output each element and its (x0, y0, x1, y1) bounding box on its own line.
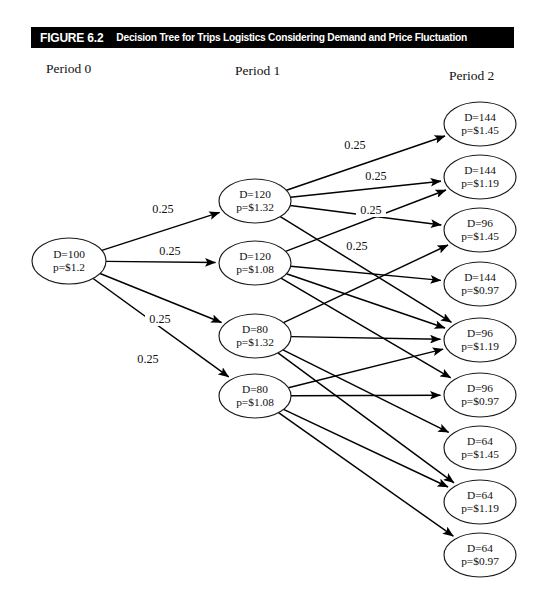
svg-text:0.25: 0.25 (360, 203, 381, 217)
tree-edge (291, 395, 441, 396)
node-price-value: p=$1.45 (461, 124, 499, 136)
tree-edge (280, 217, 451, 323)
tree-edge (284, 245, 449, 323)
node-demand-value: D=80 (242, 383, 268, 395)
node-demand-value: D=144 (464, 164, 496, 176)
tree-edge (286, 274, 445, 328)
svg-text:0.25: 0.25 (159, 244, 180, 258)
node-price-value: p=$0.97 (461, 284, 499, 296)
node-price-value: p=$1.19 (461, 177, 499, 189)
tree-node: D=144p=$0.97 (444, 262, 516, 306)
edge-probability-label: 0.25 (361, 169, 391, 183)
node-demand-value: D=64 (467, 489, 493, 501)
node-price-value: p=$1.19 (461, 502, 499, 514)
tree-edge (291, 266, 441, 280)
tree-edge (288, 349, 443, 388)
node-demand-value: D=144 (464, 111, 496, 123)
node-demand-value: D=64 (467, 542, 493, 554)
node-price-value: p=$1.32 (236, 336, 274, 348)
tree-node: D=96p=$0.97 (444, 373, 516, 417)
tree-edge (290, 181, 441, 197)
tree-node: D=96p=$1.19 (444, 318, 516, 362)
edge-probability-label: 0.25 (340, 138, 370, 152)
figure-container: FIGURE 6.2 Decision Tree for Trips Logis… (0, 0, 545, 608)
tree-node: D=144p=$1.19 (444, 155, 516, 199)
node-demand-value: D=120 (239, 188, 271, 200)
edge-probability-label: 0.25 (148, 202, 178, 216)
node-demand-value: D=96 (467, 327, 493, 339)
svg-text:0.25: 0.25 (152, 202, 173, 216)
tree-edge (291, 337, 441, 340)
tree-edge (281, 278, 451, 378)
tree-edge (279, 413, 454, 537)
tree-node: D=80p=$1.08 (219, 374, 291, 418)
tree-edge (284, 409, 449, 487)
node-price-value: p=$1.45 (461, 230, 499, 242)
tree-edge (106, 261, 216, 262)
svg-text:0.25: 0.25 (149, 312, 170, 326)
node-demand-value: D=100 (53, 248, 85, 260)
svg-text:0.25: 0.25 (137, 352, 158, 366)
node-demand-value: D=96 (467, 217, 493, 229)
tree-node: D=100p=$1.2 (32, 238, 106, 284)
node-demand-value: D=96 (467, 382, 493, 394)
decision-tree-canvas: D=100p=$1.2D=120p=$1.32D=120p=$1.08D=80p… (0, 0, 545, 608)
node-layer: D=100p=$1.2D=120p=$1.32D=120p=$1.08D=80p… (32, 102, 516, 577)
tree-node: D=144p=$1.45 (444, 102, 516, 146)
tree-edge (278, 353, 454, 483)
node-price-value: p=$1.45 (461, 448, 499, 460)
tree-node: D=120p=$1.32 (219, 179, 291, 223)
node-price-value: p=$1.19 (461, 340, 499, 352)
edge-probability-label: 0.25 (356, 203, 386, 217)
node-demand-value: D=64 (467, 435, 493, 447)
svg-text:0.25: 0.25 (346, 239, 367, 253)
node-price-value: p=$0.97 (461, 555, 499, 567)
tree-node: D=64p=$0.97 (444, 533, 516, 577)
tree-node: D=64p=$1.19 (444, 480, 516, 524)
node-demand-value: D=144 (464, 271, 496, 283)
tree-node: D=80p=$1.32 (219, 314, 291, 358)
svg-text:0.25: 0.25 (365, 169, 386, 183)
edge-probability-label: 0.25 (155, 244, 185, 258)
node-price-value: p=$1.32 (236, 201, 274, 213)
tree-node: D=64p=$1.45 (444, 426, 516, 470)
svg-text:0.25: 0.25 (344, 138, 365, 152)
node-price-value: p=$1.2 (53, 261, 85, 273)
node-demand-value: D=120 (239, 250, 271, 262)
edge-probability-label: 0.25 (342, 239, 372, 253)
edge-probability-label: 0.25 (145, 312, 175, 326)
node-demand-value: D=80 (242, 323, 268, 335)
node-price-value: p=$0.97 (461, 395, 499, 407)
tree-node: D=96p=$1.45 (444, 208, 516, 252)
tree-node: D=120p=$1.08 (219, 241, 291, 285)
node-price-value: p=$1.08 (236, 396, 274, 408)
edge-probability-label: 0.25 (133, 352, 163, 366)
node-price-value: p=$1.08 (236, 263, 274, 275)
